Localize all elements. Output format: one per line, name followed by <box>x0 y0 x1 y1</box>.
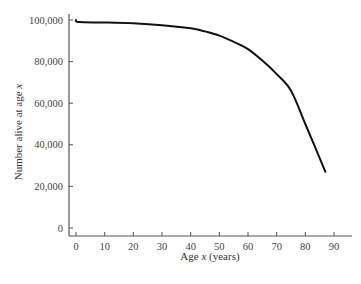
x-tick-label: 60 <box>243 241 254 252</box>
x-tick-label: 0 <box>73 241 78 252</box>
x-tick-label: 80 <box>300 241 311 252</box>
y-tick-label: 100,000 <box>29 15 63 26</box>
survivorship-chart: 020,00040,00060,00080,000100,000 0102030… <box>0 0 361 284</box>
y-axis: 020,00040,00060,00080,000100,000 <box>29 14 73 236</box>
x-tick-label: 10 <box>99 241 110 252</box>
y-tick-label: 0 <box>58 223 63 234</box>
x-tick-label: 90 <box>329 241 340 252</box>
x-tick-label: 70 <box>271 241 282 252</box>
y-tick-label: 60,000 <box>34 98 63 109</box>
plot-area <box>76 20 326 172</box>
survivorship-curve <box>76 20 326 172</box>
x-axis: 0102030405060708090 <box>69 232 352 252</box>
y-tick-label: 20,000 <box>34 181 63 192</box>
y-tick-label: 40,000 <box>34 139 63 150</box>
x-tick-label: 30 <box>157 241 168 252</box>
x-tick-label: 20 <box>128 241 139 252</box>
y-axis-title: Number alive at age x <box>12 84 24 181</box>
y-tick-label: 80,000 <box>34 56 63 67</box>
x-axis-title: Age x (years) <box>180 250 240 263</box>
